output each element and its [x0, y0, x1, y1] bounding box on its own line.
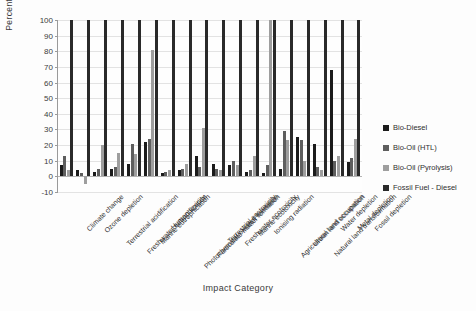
bar [337, 156, 340, 176]
bar-group [347, 20, 361, 192]
legend-label: Fossil Fuel - Diesel [393, 183, 457, 192]
bar [253, 156, 256, 176]
legend-label: Bio-Oil (HTL) [393, 143, 437, 152]
bar-group [144, 20, 158, 192]
legend-swatch-icon [383, 165, 389, 171]
chart-legend: Bio-DieselBio-Oil (HTL)Bio-Oil (Pyrolysi… [383, 123, 457, 203]
bar [198, 167, 201, 176]
legend-item[interactable]: Fossil Fuel - Diesel [383, 183, 457, 192]
bar-group [110, 20, 124, 192]
bar [80, 173, 83, 176]
y-axis-tick-label: -10 [19, 188, 53, 197]
bar [114, 167, 117, 176]
bar-group [313, 20, 327, 192]
y-axis-tick-mark [55, 145, 58, 146]
bar-group [245, 20, 259, 192]
y-axis-tick-mark [55, 98, 58, 99]
bar [76, 170, 79, 176]
bar [273, 20, 276, 176]
bar-group [178, 20, 192, 192]
bar-group [296, 20, 310, 192]
x-axis-title: Impact Category [0, 283, 476, 293]
bar [185, 164, 188, 177]
bar-group [195, 20, 209, 192]
bar [117, 153, 120, 176]
bar [236, 165, 239, 176]
legend-item[interactable]: Bio-Oil (Pyrolysis) [383, 163, 457, 172]
bar [93, 172, 96, 177]
legend-swatch-icon [383, 125, 389, 131]
bar [316, 167, 319, 176]
bar [262, 173, 265, 176]
bar-group [76, 20, 90, 192]
bar-group [93, 20, 107, 192]
y-axis-tick-label: 90 [19, 31, 53, 40]
bar [239, 20, 242, 176]
bar [189, 20, 192, 176]
bar [144, 142, 147, 176]
bar [324, 20, 327, 176]
bar [219, 170, 222, 176]
bar [63, 156, 66, 176]
y-axis-tick-label: 50 [19, 94, 53, 103]
y-axis-tick-label: 30 [19, 125, 53, 134]
bar [101, 145, 104, 176]
bar [222, 20, 225, 176]
bar [307, 20, 310, 176]
bar [283, 131, 286, 176]
y-axis-tick-mark [55, 20, 58, 21]
bar [232, 161, 235, 177]
y-axis-title: Percentage [4, 0, 14, 52]
y-axis-tick-label: 70 [19, 62, 53, 71]
y-axis-tick-label: 0 [19, 172, 53, 181]
legend-item[interactable]: Bio-Diesel [383, 123, 457, 132]
bar [70, 20, 73, 176]
bar [67, 170, 70, 176]
y-axis-tick-label: 10 [19, 156, 53, 165]
bar [212, 164, 215, 177]
bar [269, 20, 272, 176]
bar [296, 137, 299, 176]
bar [110, 169, 113, 177]
y-axis-tick-mark [55, 129, 58, 130]
bar [195, 156, 198, 176]
bar-group [127, 20, 141, 192]
bar-group [212, 20, 226, 192]
bar [84, 176, 87, 184]
bar [134, 154, 137, 176]
bar [121, 20, 124, 176]
x-axis-category-label: Urban land occupation [312, 193, 366, 247]
bar [205, 20, 208, 176]
bar-group [228, 20, 242, 192]
bar [256, 20, 259, 176]
bar [290, 20, 293, 176]
y-axis-tick-mark [55, 51, 58, 52]
bar [161, 173, 164, 176]
bar [138, 20, 141, 176]
bar-group [60, 20, 74, 192]
bar [148, 139, 151, 177]
bar [97, 169, 100, 177]
legend-item[interactable]: Bio-Oil (HTL) [383, 143, 457, 152]
bar [104, 20, 107, 176]
y-axis-tick-label: 20 [19, 141, 53, 150]
y-axis-tick-mark [55, 67, 58, 68]
bar [172, 20, 175, 176]
bar [249, 170, 252, 176]
bar [155, 20, 158, 176]
bar [341, 20, 344, 176]
bar [87, 20, 90, 176]
bar [228, 165, 231, 176]
bar [178, 170, 181, 176]
legend-label: Bio-Oil (Pyrolysis) [393, 163, 453, 172]
bar [313, 144, 316, 177]
y-axis-tick-label: 100 [19, 16, 53, 25]
y-axis-tick-mark [55, 36, 58, 37]
bar [330, 70, 333, 176]
y-axis-tick-label: 80 [19, 47, 53, 56]
legend-label: Bio-Diesel [393, 123, 427, 132]
bar [131, 144, 134, 177]
bar [357, 20, 360, 176]
bar [127, 164, 130, 177]
bar [354, 139, 357, 177]
